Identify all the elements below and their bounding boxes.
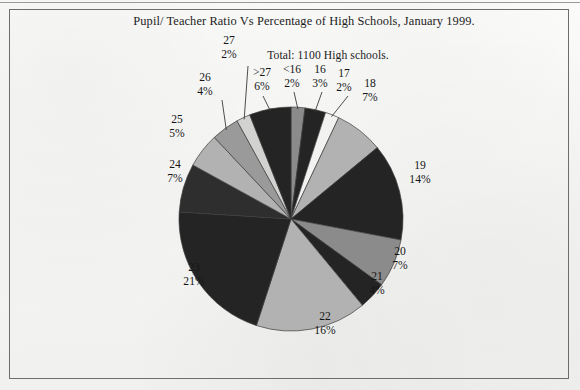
slice-category-text: >27 — [232, 66, 292, 80]
slice-category-text: 18 — [340, 77, 400, 91]
slice-category-text: 26 — [175, 71, 235, 85]
slice-percent-text: 7% — [340, 91, 400, 105]
slice-category-text: 19 — [390, 159, 450, 173]
slice-percent-text: 21% — [164, 275, 224, 289]
slice-percent-text: 6% — [232, 80, 292, 94]
pie-slice-label: 1914% — [390, 159, 450, 186]
slice-category-text: 24 — [145, 158, 205, 172]
leader-line — [222, 100, 226, 130]
pie-slice-label: >276% — [232, 66, 292, 93]
leader-line — [315, 92, 322, 112]
pie-slice-label: 207% — [370, 245, 430, 272]
slice-category-text: 23 — [164, 261, 224, 275]
pie-slice-label: 272% — [199, 34, 259, 61]
pie-slice-label: 264% — [175, 71, 235, 98]
leader-line — [263, 96, 270, 111]
slice-percent-text: 4% — [175, 85, 235, 99]
chart-page: Pupil/ Teacher Ratio Vs Percentage of Hi… — [0, 0, 580, 390]
pie-slice-label: 214% — [347, 270, 407, 297]
slice-category-text: 21 — [347, 270, 407, 284]
slice-category-text: 20 — [370, 245, 430, 259]
leader-line — [294, 92, 298, 109]
pie-slice-label: 187% — [340, 77, 400, 104]
slice-category-text: 25 — [147, 113, 207, 127]
slice-percent-text: 4% — [347, 284, 407, 298]
slice-percent-text: 2% — [199, 48, 259, 62]
slice-percent-text: 14% — [390, 173, 450, 187]
slice-category-text: 27 — [199, 34, 259, 48]
slice-percent-text: 7% — [145, 172, 205, 186]
slice-percent-text: 5% — [147, 127, 207, 141]
pie-slice-label: 2321% — [164, 261, 224, 288]
pie-slice-group — [179, 107, 403, 331]
pie-slice-label: 255% — [147, 113, 207, 140]
pie-chart — [0, 0, 580, 390]
slice-percent-text: 16% — [295, 324, 355, 338]
slice-category-text: 22 — [295, 310, 355, 324]
pie-slice-label: 247% — [145, 158, 205, 185]
pie-slice-label: 2216% — [295, 310, 355, 337]
